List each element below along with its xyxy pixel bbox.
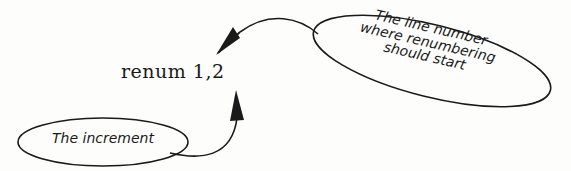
renum-command: renum 1,2 <box>121 60 225 82</box>
increment-arrowhead-icon <box>230 90 244 121</box>
increment-label: The increment <box>28 131 178 146</box>
start-line-arrowhead-icon <box>216 27 240 55</box>
increment-arrow <box>170 118 237 156</box>
start-line-arrow <box>240 19 318 34</box>
